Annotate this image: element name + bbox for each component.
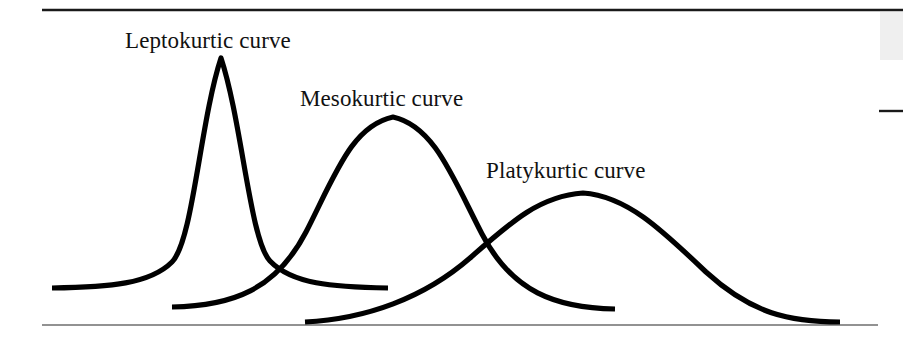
kurtosis-figure: Leptokurtic curve Mesokurtic curve Platy… [0, 0, 903, 339]
top-right-gray-patch [880, 12, 903, 60]
mesokurtic-curve-label: Mesokurtic curve [300, 86, 463, 111]
platykurtic-curve-label: Platykurtic curve [486, 158, 645, 183]
leptokurtic-curve-label: Leptokurtic curve [125, 28, 291, 53]
kurtosis-chart: Leptokurtic curve Mesokurtic curve Platy… [0, 0, 903, 339]
